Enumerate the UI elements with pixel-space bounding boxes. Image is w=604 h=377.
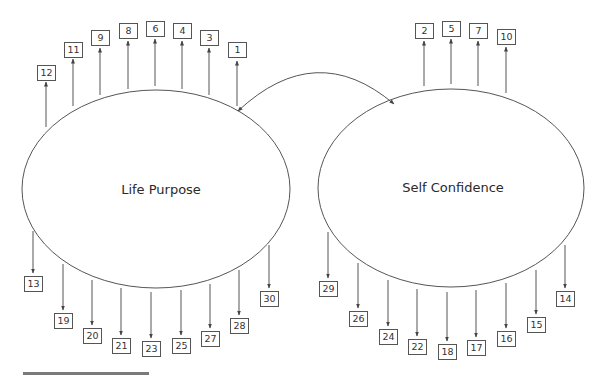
indicator-box-1: 1: [228, 42, 247, 58]
indicator-box-5: 5: [442, 21, 461, 37]
indicator-box-12: 12: [37, 65, 56, 81]
indicator-box-15: 15: [527, 317, 546, 333]
diagram-canvas: [0, 0, 604, 377]
indicator-box-3: 3: [200, 30, 219, 46]
indicator-box-2: 2: [415, 23, 434, 39]
indicator-box-6: 6: [146, 21, 165, 37]
indicator-box-10: 10: [497, 29, 516, 45]
indicator-box-14: 14: [556, 291, 575, 307]
latent-label-self-confidence: Self Confidence: [402, 180, 504, 195]
indicator-box-7: 7: [469, 23, 488, 39]
sem-diagram: Life Purpose Self Confidence 12119864311…: [0, 0, 604, 377]
indicator-box-9: 9: [91, 30, 110, 46]
covariance-double-arrow: [238, 73, 394, 111]
indicator-box-27: 27: [201, 331, 220, 347]
indicator-box-22: 22: [408, 339, 427, 355]
indicator-box-29: 29: [319, 281, 338, 297]
indicator-box-13: 13: [24, 276, 43, 292]
indicator-box-18: 18: [438, 344, 457, 360]
indicator-box-30: 30: [260, 291, 279, 307]
indicator-box-25: 25: [172, 338, 191, 354]
indicator-box-4: 4: [173, 23, 192, 39]
indicator-box-21: 21: [112, 338, 131, 354]
indicator-box-16: 16: [497, 331, 516, 347]
indicator-box-28: 28: [230, 318, 249, 334]
indicator-box-20: 20: [83, 328, 102, 344]
indicator-box-23: 23: [142, 341, 161, 357]
indicator-box-26: 26: [349, 311, 368, 327]
covariance-arc: [238, 73, 394, 111]
latent-label-life-purpose: Life Purpose: [121, 182, 201, 197]
indicator-box-8: 8: [119, 23, 138, 39]
footer-rule: [23, 372, 149, 375]
indicator-box-17: 17: [467, 340, 486, 356]
indicator-box-11: 11: [64, 42, 83, 58]
indicator-box-19: 19: [54, 313, 73, 329]
indicator-box-24: 24: [379, 329, 398, 345]
